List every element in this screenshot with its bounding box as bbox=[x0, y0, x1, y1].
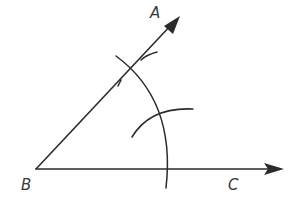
arc-mark-on-ba bbox=[141, 52, 157, 60]
label-a: A bbox=[150, 6, 160, 21]
arrowhead-a-icon bbox=[164, 16, 180, 34]
label-b: B bbox=[21, 178, 31, 193]
label-c: C bbox=[228, 178, 238, 193]
angle-construction-diagram bbox=[0, 0, 304, 207]
